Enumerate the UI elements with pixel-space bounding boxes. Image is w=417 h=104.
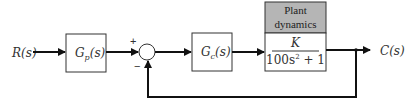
prefilter-block: Gp(s) (66, 34, 106, 72)
plant-block: Plant dynamics K 100s2 + 1 (265, 2, 326, 71)
prefilter-label: Gp(s) (75, 46, 106, 62)
minus-sign: − (134, 60, 140, 72)
plant-header-line2: dynamics (274, 18, 316, 30)
controller-label: Gc(s) (201, 45, 231, 61)
controller-block: Gc(s) (192, 33, 232, 71)
summing-junction (139, 44, 155, 60)
plant-numerator: K (290, 36, 301, 50)
plus-sign: + (130, 35, 136, 47)
block-diagram: R(s) Gp(s) + − Gc(s) Plant dynamics K 10… (0, 0, 417, 104)
plant-header-line1: Plant (284, 4, 307, 16)
input-label: R(s) (11, 46, 37, 60)
output-label: C(s) (380, 44, 405, 58)
